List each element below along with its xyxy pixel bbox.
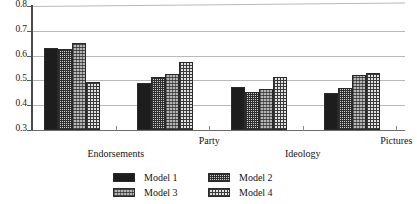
y-axis-tick-label-text: 0.3 [15,123,27,133]
y-axis-tick-label-text: 0.5 [15,73,27,83]
legend-item-model-3: Model 3 [113,187,208,198]
gridline [31,56,405,57]
legend-label-model-2: Model 2 [239,172,273,183]
x-axis-tick-mark [209,126,210,131]
legend-label-model-1: Model 1 [144,172,178,183]
bar-ideology-model-3 [259,89,273,130]
y-axis-tick-label-text: 0.8 [15,0,27,9]
legend-item-model-1: Model 1 [113,172,208,183]
legend-item-model-4: Model 4 [208,187,303,198]
x-axis-label-party: Party [149,135,269,146]
legend: Model 1 Model 2 Model 3 Model 4 [113,170,303,200]
bar-pictures-model-3 [352,75,366,130]
y-axis-tick-label-text: 0.6 [15,49,27,59]
gridline [31,31,405,32]
bar-endorsements-model-3 [72,43,86,130]
y-axis-tick-label-text: 0.7 [15,24,27,34]
bar-party-model-3 [165,74,179,130]
x-axis-label-pictures: Pictures [336,135,417,146]
legend-swatch-model-3-icon [113,188,135,197]
legend-label-model-4: Model 4 [239,187,273,198]
y-axis-tick-label-text: 0.4 [15,98,27,108]
bar-endorsements-model-4 [86,82,100,130]
legend-row: Model 3 Model 4 [113,185,303,200]
bar-endorsements-model-2 [58,49,72,130]
bar-ideology-model-4 [273,77,287,130]
bar-endorsements-model-1 [44,48,58,130]
x-axis-line [31,130,405,131]
bar-ideology-model-2 [245,92,259,130]
legend-swatch-model-2-icon [208,173,230,182]
bar-pictures-model-1 [324,93,338,130]
x-axis-tick-mark [396,126,397,131]
legend-swatch-model-4-icon [208,188,230,197]
bar-party-model-1 [137,83,151,130]
bar-pictures-model-2 [338,88,352,130]
bar-party-model-4 [179,62,193,130]
bar-party-model-2 [151,77,165,130]
bar-ideology-model-1 [231,87,245,130]
x-axis-label-endorsements: Endorsements [56,148,176,159]
y-axis-line [31,5,33,131]
legend-item-model-2: Model 2 [208,172,303,183]
legend-label-model-3: Model 3 [144,187,178,198]
x-axis-tick-mark [116,126,117,131]
x-axis-label-ideology: Ideology [243,148,363,159]
x-axis-tick-mark [303,126,304,131]
legend-row: Model 1 Model 2 [113,170,303,185]
legend-swatch-model-1-icon [113,173,135,182]
bar-pictures-model-4 [366,73,380,130]
